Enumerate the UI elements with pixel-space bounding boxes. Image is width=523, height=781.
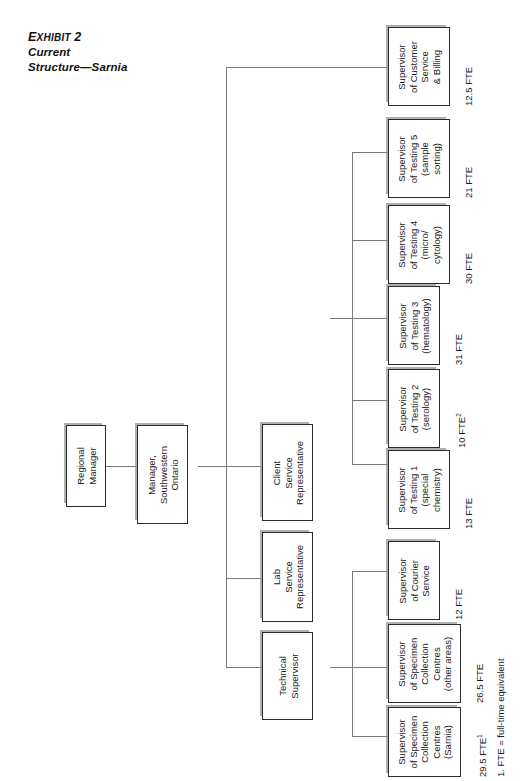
trunk-testing-vertical bbox=[352, 152, 353, 465]
connector-testing-trunk-to-testing-5 bbox=[352, 152, 388, 153]
connector-manager-to-trunk bbox=[198, 466, 227, 467]
node-supervisor-courier-service-label: Supervisor of Courier Service bbox=[397, 558, 432, 603]
connector-trunk-to-technical-supervisor bbox=[226, 667, 262, 668]
node-supervisor-testing-5-label: Supervisor of Testing 5 (sample sorting) bbox=[396, 134, 442, 182]
connector-trunk-to-customer-service bbox=[226, 67, 388, 68]
node-lab-service-representative-label: Lab Service Representative bbox=[270, 545, 305, 609]
trunk-collection-vertical bbox=[352, 571, 353, 736]
node-supervisor-testing-5[interactable]: Supervisor of Testing 5 (sample sorting) bbox=[388, 119, 450, 198]
node-supervisor-testing-4-label: Supervisor of Testing 4 (micro/ cytology… bbox=[396, 220, 442, 268]
node-supervisor-customer-service-billing-label: Supervisor of Customer Service & Billing bbox=[396, 41, 442, 93]
node-supervisor-testing-1[interactable]: Supervisor of Testing 1 (special chemist… bbox=[388, 450, 450, 529]
node-supervisor-specimen-collection-other[interactable]: Supervisor of Specimen Collection Centre… bbox=[388, 624, 461, 703]
fte-label-specimen-collection-other: 26.5 FTE bbox=[474, 664, 485, 703]
node-supervisor-testing-3-label: Supervisor of Testing 3 (hematology) bbox=[397, 298, 432, 353]
node-manager-southwestern-ontario[interactable]: Manager, Southwestern Ontario bbox=[137, 425, 188, 524]
exhibit-canvas: EXHIBIT 2 Current Structure—Sarnia Regio… bbox=[0, 0, 523, 781]
fte-footnote-marker-1: 1 bbox=[476, 734, 483, 738]
connector-testing-trunk-to-testing-4 bbox=[352, 240, 388, 241]
node-supervisor-specimen-collection-sarnia[interactable]: Supervisor of Specimen Collection Centre… bbox=[388, 707, 461, 777]
node-technical-supervisor-label: Technical Supervisor bbox=[276, 653, 299, 698]
fte-footnote-marker-2: 2 bbox=[455, 413, 462, 417]
trunk-main-vertical bbox=[226, 67, 227, 667]
connector-collection-trunk-to-courier bbox=[352, 571, 388, 572]
connector-testing-trunk-to-testing-1 bbox=[352, 464, 388, 465]
exhibit-number: 2 bbox=[74, 30, 81, 44]
fte-label-testing-5: 21 FTE bbox=[463, 167, 474, 198]
fte-label-testing-1: 13 FTE bbox=[463, 498, 474, 529]
connector-trunk-to-client-service bbox=[226, 466, 262, 467]
connector-regional-to-manager bbox=[106, 466, 137, 467]
fte-label-testing-4: 30 FTE bbox=[463, 253, 474, 284]
node-lab-service-representative[interactable]: Lab Service Representative bbox=[262, 532, 313, 622]
node-client-service-representative[interactable]: Client Service Representative bbox=[262, 424, 313, 521]
fte-label-courier-service: 12 FTE bbox=[453, 589, 464, 620]
exhibit-title: EXHIBIT 2 Current Structure—Sarnia bbox=[28, 30, 228, 75]
node-regional-manager[interactable]: Regional Manager bbox=[66, 425, 106, 507]
node-regional-manager-label: Regional Manager bbox=[75, 447, 98, 485]
node-supervisor-testing-3[interactable]: Supervisor of Testing 3 (hematology) bbox=[388, 286, 440, 365]
node-supervisor-testing-4[interactable]: Supervisor of Testing 4 (micro/ cytology… bbox=[388, 205, 450, 284]
connector-collection-trunk-to-specimen-other bbox=[352, 667, 388, 668]
node-supervisor-testing-2[interactable]: Supervisor of Testing 2 (serology) bbox=[388, 369, 440, 448]
node-supervisor-specimen-collection-sarnia-label: Supervisor of Specimen Collection Centre… bbox=[396, 716, 454, 769]
node-supervisor-specimen-collection-other-label: Supervisor of Specimen Collection Centre… bbox=[396, 636, 454, 690]
node-supervisor-testing-2-label: Supervisor of Testing 2 (serology) bbox=[397, 384, 432, 432]
node-supervisor-customer-service-billing[interactable]: Supervisor of Customer Service & Billing bbox=[388, 27, 450, 106]
connector-testing-trunk-to-testing-3 bbox=[352, 318, 388, 319]
node-manager-southwestern-ontario-label: Manager, Southwestern Ontario bbox=[145, 445, 180, 503]
node-technical-supervisor[interactable]: Technical Supervisor bbox=[262, 632, 313, 720]
fte-label-testing-2: 10 FTE2 bbox=[453, 413, 467, 448]
exhibit-label-rest: XHIBIT bbox=[36, 32, 71, 43]
exhibit-title-line3: Structure—Sarnia bbox=[28, 60, 228, 75]
fte-label-specimen-collection-sarnia: 29.5 FTE1 bbox=[474, 734, 488, 777]
exhibit-title-line1: EXHIBIT 2 bbox=[28, 30, 228, 45]
connector-testing-trunk-to-testing-2 bbox=[352, 400, 388, 401]
connector-trunk-to-lab-service bbox=[226, 578, 262, 579]
node-supervisor-testing-1-label: Supervisor of Testing 1 (special chemist… bbox=[396, 465, 442, 513]
node-client-service-representative-label: Client Service Representative bbox=[270, 441, 305, 505]
connector-collection-trunk-to-specimen-sarnia bbox=[352, 736, 388, 737]
exhibit-title-line2: Current bbox=[28, 45, 228, 60]
footnote: 1. FTE = full-time equivalent bbox=[495, 658, 506, 777]
node-supervisor-courier-service[interactable]: Supervisor of Courier Service bbox=[388, 541, 440, 620]
fte-label-testing-3: 31 FTE bbox=[453, 334, 464, 365]
fte-label-customer-service-billing: 12.5 FTE bbox=[463, 67, 474, 106]
